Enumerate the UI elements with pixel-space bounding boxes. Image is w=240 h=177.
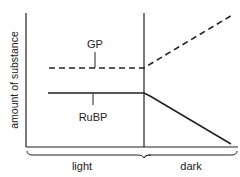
light-brace: [27, 151, 151, 158]
rubp-line: [48, 93, 231, 144]
dark-brace: [144, 151, 237, 158]
gp-line: [49, 14, 234, 68]
rubp-label: RuBP: [79, 111, 108, 123]
dark-phase-label: dark: [180, 160, 202, 172]
light-phase-label: light: [72, 160, 92, 172]
chart: amount of substance GP RuBP light dark: [0, 0, 240, 177]
y-axis-label: amount of substance: [8, 31, 20, 129]
gp-label: GP: [87, 38, 103, 50]
